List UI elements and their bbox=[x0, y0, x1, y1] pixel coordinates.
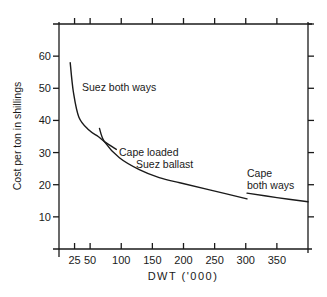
axis-ticks: 2550100150200250300350102030405060 bbox=[39, 18, 314, 266]
x-tick-label: 100 bbox=[112, 254, 130, 266]
y-axis-label: Cost per ton in shillings bbox=[11, 82, 23, 191]
y-tick-label: 30 bbox=[39, 147, 51, 159]
plot-frame bbox=[53, 22, 312, 257]
x-tick-label: 25 bbox=[68, 254, 80, 266]
curve-annotation: Cape loaded bbox=[119, 146, 179, 158]
y-tick-label: 10 bbox=[39, 211, 51, 223]
curve-annotation: Cape bbox=[247, 167, 272, 179]
x-tick-label: 200 bbox=[174, 254, 192, 266]
x-tick-label: 350 bbox=[268, 254, 286, 266]
curve-labels: Suez both waysCape loadedSuez ballastCap… bbox=[82, 81, 294, 191]
y-tick-label: 20 bbox=[39, 179, 51, 191]
curve-annotation: Suez ballast bbox=[136, 158, 193, 170]
x-tick-label: 50 bbox=[84, 254, 96, 266]
x-tick-label: 250 bbox=[205, 254, 223, 266]
y-tick-label: 60 bbox=[39, 50, 51, 62]
cost-vs-dwt-chart: 2550100150200250300350102030405060 Suez … bbox=[0, 0, 327, 297]
x-tick-label: 300 bbox=[237, 254, 255, 266]
x-tick-label: 150 bbox=[143, 254, 161, 266]
curve-cape-both-ways bbox=[247, 193, 308, 202]
curve-annotation: both ways bbox=[247, 179, 294, 191]
y-tick-label: 40 bbox=[39, 114, 51, 126]
curve-annotation: Suez both ways bbox=[82, 81, 156, 93]
x-axis-label: DWT ('000) bbox=[148, 270, 219, 282]
y-tick-label: 50 bbox=[39, 82, 51, 94]
curve-suez-both-ways bbox=[70, 63, 116, 150]
